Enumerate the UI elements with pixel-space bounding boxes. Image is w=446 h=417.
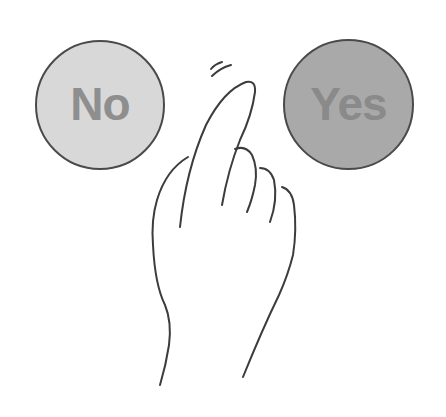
index-finger-outline — [180, 82, 255, 227]
motion-line-icon — [212, 65, 231, 76]
choice-illustration: No Yes — [0, 0, 446, 417]
palm-left-outline — [153, 157, 189, 385]
middle-finger-outline — [235, 148, 256, 212]
motion-line-icon — [211, 62, 222, 69]
ring-finger-outline — [260, 168, 275, 222]
pinky-and-palm-right-outline — [243, 187, 295, 377]
hand-pointing-icon — [0, 0, 446, 417]
